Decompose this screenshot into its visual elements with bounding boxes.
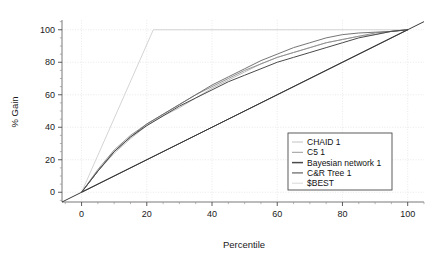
y-tick-label: 20 [45,155,55,165]
x-tick-label: 0 [79,209,84,219]
chart-canvas: 020406080100020406080100 Percentile % Ga… [0,0,438,256]
x-tick-label: 40 [207,209,217,219]
legend-label[interactable]: C5 1 [307,147,325,157]
y-tick-label: 0 [50,187,55,197]
x-tick-label: 20 [142,209,152,219]
legend-label[interactable]: C&R Tree 1 [307,168,352,178]
chart-legend[interactable]: CHAID 1C5 1Bayesian network 1C&R Tree 1$… [288,133,392,190]
gains-chart: 020406080100020406080100 Percentile % Ga… [0,0,438,256]
legend-label[interactable]: CHAID 1 [307,137,341,147]
y-axis-title: % Gain [9,96,20,127]
y-tick-label: 80 [45,57,55,67]
x-tick-label: 80 [337,209,347,219]
y-tick-label: 100 [40,25,55,35]
x-tick-label: 60 [272,209,282,219]
legend-label[interactable]: $BEST [307,178,334,188]
y-tick-label: 60 [45,90,55,100]
x-tick-label: 100 [400,209,415,219]
y-tick-label: 40 [45,122,55,132]
legend-label[interactable]: Bayesian network 1 [307,158,381,168]
x-axis-title: Percentile [223,239,265,250]
